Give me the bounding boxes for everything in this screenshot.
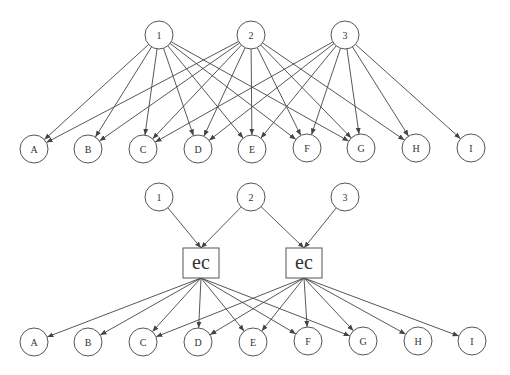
edge-arrow bbox=[153, 45, 242, 139]
node-label: 2 bbox=[249, 30, 254, 41]
edge-arrow bbox=[152, 278, 201, 332]
bottom-source-node-3: 3 bbox=[331, 183, 359, 211]
node-label: 3 bbox=[343, 30, 348, 41]
top-graph-nodes: 123ABCDEFGHI bbox=[20, 21, 485, 163]
edge-arrow bbox=[347, 49, 359, 134]
bottom-target-node-F: F bbox=[294, 327, 322, 355]
edge-arrow bbox=[352, 47, 408, 136]
node-label: F bbox=[304, 143, 310, 154]
node-label: 3 bbox=[343, 192, 348, 203]
node-label: B bbox=[85, 337, 92, 348]
node-label: G bbox=[359, 336, 366, 347]
node-label: 2 bbox=[249, 192, 254, 203]
edge-arrow bbox=[263, 43, 405, 140]
node-label: 1 bbox=[157, 192, 162, 203]
top-graph-edges bbox=[44, 42, 460, 143]
edge-arrow bbox=[199, 278, 201, 328]
edge-arrow bbox=[168, 46, 243, 138]
node-label: C bbox=[140, 144, 147, 155]
edge-arrow bbox=[257, 48, 301, 136]
edge-arrow bbox=[201, 207, 241, 248]
bottom-graph-edges bbox=[47, 207, 459, 337]
top-target-node-C: C bbox=[129, 135, 157, 163]
node-label: A bbox=[30, 144, 38, 155]
top-target-node-G: G bbox=[347, 134, 375, 162]
bottom-source-node-1: 1 bbox=[145, 183, 173, 211]
edge-arrow bbox=[100, 278, 201, 335]
edge-arrow bbox=[261, 207, 304, 248]
node-label: H bbox=[412, 143, 419, 154]
bottom-target-node-G: G bbox=[349, 327, 377, 355]
edge-arrow bbox=[304, 278, 353, 331]
bottom-source-node-2: 2 bbox=[237, 183, 265, 211]
edge-arrow bbox=[304, 208, 336, 248]
node-label: E bbox=[250, 337, 256, 348]
node-label: F bbox=[305, 336, 311, 347]
top-target-node-H: H bbox=[402, 134, 430, 162]
bottom-target-node-C: C bbox=[129, 328, 157, 356]
bottom-graph-nodes: 123ececABCDEFGHI bbox=[20, 183, 486, 356]
node-label: G bbox=[357, 143, 364, 154]
edge-arrow bbox=[304, 278, 307, 327]
bipartite-diagram: 123ABCDEFGHI 123ececABCDEFGHI bbox=[0, 0, 510, 375]
edge-arrow bbox=[204, 48, 245, 137]
ec-box-label: ec bbox=[192, 251, 210, 273]
top-target-node-I: I bbox=[457, 134, 485, 162]
edge-arrow bbox=[261, 45, 351, 138]
node-label: A bbox=[30, 337, 38, 348]
edge-arrow bbox=[168, 208, 201, 248]
node-label: C bbox=[140, 337, 147, 348]
node-label: 1 bbox=[157, 30, 162, 41]
edge-arrow bbox=[355, 44, 460, 138]
ec-box-label: ec bbox=[295, 251, 313, 273]
node-label: I bbox=[469, 143, 472, 154]
node-label: H bbox=[414, 336, 421, 347]
bottom-target-node-E: E bbox=[239, 328, 267, 356]
top-source-node-1: 1 bbox=[145, 21, 173, 49]
bottom-target-node-I: I bbox=[458, 327, 486, 355]
edge-arrow bbox=[145, 49, 157, 135]
edge-arrow bbox=[46, 42, 238, 143]
edge-arrow bbox=[99, 43, 239, 141]
bottom-target-node-A: A bbox=[20, 328, 48, 356]
ec-box-ec2: ec bbox=[286, 248, 322, 278]
node-label: B bbox=[85, 144, 92, 155]
ec-box-ec1: ec bbox=[183, 248, 219, 278]
top-source-node-3: 3 bbox=[331, 21, 359, 49]
bottom-target-node-H: H bbox=[404, 327, 432, 355]
top-target-node-F: F bbox=[293, 134, 321, 162]
top-target-node-A: A bbox=[20, 135, 48, 163]
top-target-node-D: D bbox=[184, 135, 212, 163]
edge-arrow bbox=[209, 44, 334, 141]
node-label: D bbox=[194, 337, 201, 348]
edge-arrow bbox=[44, 44, 148, 139]
node-label: I bbox=[470, 336, 473, 347]
top-source-node-2: 2 bbox=[237, 21, 265, 49]
node-label: D bbox=[194, 144, 201, 155]
edge-arrow bbox=[311, 48, 340, 134]
node-label: E bbox=[249, 144, 255, 155]
top-target-node-B: B bbox=[74, 135, 102, 163]
bottom-target-node-B: B bbox=[74, 328, 102, 356]
edge-arrow bbox=[251, 49, 252, 135]
edge-arrow bbox=[304, 278, 406, 334]
bottom-target-node-D: D bbox=[184, 328, 212, 356]
top-target-node-E: E bbox=[238, 135, 266, 163]
